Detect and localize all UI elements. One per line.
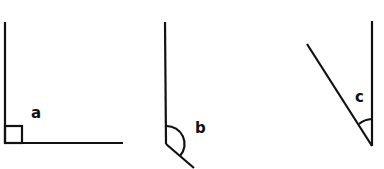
angle-c-label: c bbox=[355, 90, 364, 105]
angles-diagram bbox=[0, 0, 384, 169]
angle-a-label: a bbox=[31, 106, 41, 121]
angle-b-label: b bbox=[195, 121, 206, 136]
angle-c-arc-marker bbox=[359, 119, 372, 124]
angle-a bbox=[4, 22, 123, 143]
angle-b bbox=[165, 22, 194, 168]
angle-b-vertical-arm bbox=[165, 22, 166, 144]
angle-c bbox=[307, 21, 372, 146]
right-angle-marker bbox=[5, 126, 22, 143]
